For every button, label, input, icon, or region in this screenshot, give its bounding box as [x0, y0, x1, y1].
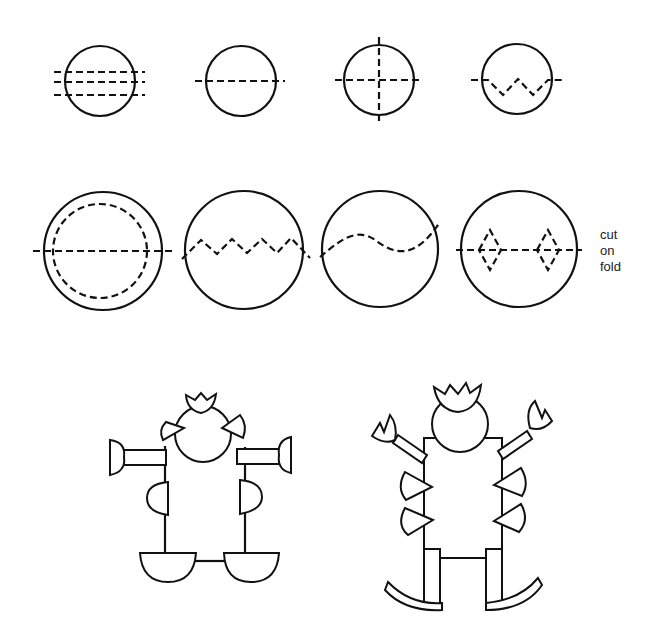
paper-robot-figure: [110, 393, 291, 582]
circle-one-dashed-line: [195, 46, 285, 116]
circle-cross-dashed-lines: [335, 37, 423, 121]
instruction-diagram: [0, 0, 657, 633]
circle-zigzag-cut: [182, 191, 310, 309]
circle-diamond-cut-on-fold: [456, 191, 582, 307]
annotation-fold: fold: [600, 259, 621, 275]
circle-wavy-cut: [320, 191, 440, 307]
circle-zigzag-fold: [471, 44, 565, 114]
annotation-on: on: [600, 243, 614, 259]
annotation-cut: cut: [600, 227, 617, 243]
circle-three-dashed-lines: [54, 46, 145, 116]
paper-crowned-figure-on-rockers: [372, 383, 552, 610]
circle-with-inner-dashed-ring: [33, 192, 175, 310]
